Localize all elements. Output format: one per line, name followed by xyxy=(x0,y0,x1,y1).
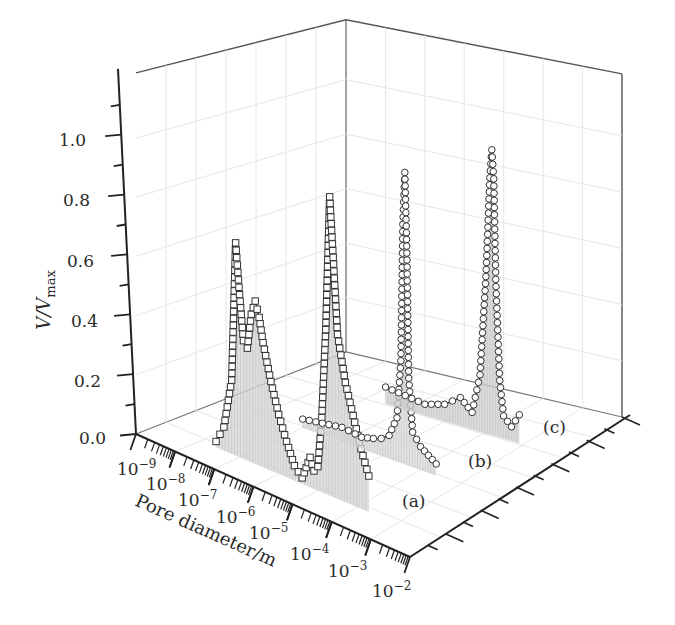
wall-top-edge xyxy=(136,20,622,74)
data-marker xyxy=(239,324,245,330)
x-minor-tick xyxy=(391,550,394,559)
data-marker xyxy=(478,350,485,357)
data-marker xyxy=(477,364,484,371)
data-marker xyxy=(313,419,320,426)
x-minor-tick xyxy=(223,474,226,483)
data-marker xyxy=(335,338,341,344)
data-marker xyxy=(261,346,267,352)
x-tick-label: 10−4 xyxy=(290,542,330,564)
x-minor-tick xyxy=(230,478,233,487)
data-marker xyxy=(360,452,366,458)
data-marker xyxy=(338,352,344,358)
y-axis-title: V/Vmax xyxy=(33,270,58,330)
data-marker xyxy=(435,401,442,408)
data-marker xyxy=(254,306,260,312)
data-marker xyxy=(234,254,240,260)
data-marker xyxy=(252,298,258,304)
data-marker xyxy=(398,358,405,365)
data-marker xyxy=(449,398,456,405)
data-marker xyxy=(481,308,488,315)
data-marker xyxy=(221,424,227,430)
data-marker xyxy=(320,374,326,380)
data-marker xyxy=(328,227,334,233)
data-marker xyxy=(330,247,336,253)
data-marker xyxy=(230,336,236,342)
back-walls xyxy=(136,20,622,434)
data-marker xyxy=(395,389,402,396)
data-marker xyxy=(232,240,238,246)
data-marker xyxy=(496,377,503,384)
data-marker xyxy=(491,204,498,211)
data-marker xyxy=(272,398,278,404)
data-marker xyxy=(347,399,353,405)
data-marker xyxy=(258,327,264,333)
data-marker xyxy=(330,261,336,267)
gridlines xyxy=(136,27,622,539)
data-marker xyxy=(229,363,235,369)
data-marker xyxy=(479,336,486,343)
data-marker xyxy=(492,255,499,262)
data-marker xyxy=(231,301,237,307)
x-minor-tick xyxy=(152,442,155,451)
data-marker xyxy=(478,343,485,350)
data-marker xyxy=(244,345,250,351)
data-marker xyxy=(404,278,411,285)
data-marker xyxy=(324,284,330,290)
data-marker xyxy=(489,154,496,161)
data-marker xyxy=(236,284,242,290)
data-marker xyxy=(490,176,497,183)
data-marker xyxy=(265,365,271,371)
data-marker xyxy=(496,363,503,370)
data-marker xyxy=(479,329,486,336)
data-marker xyxy=(227,384,233,390)
data-marker xyxy=(404,264,411,271)
x-minor-tick xyxy=(145,439,148,448)
y-minor-tick xyxy=(120,284,129,286)
data-marker xyxy=(405,312,412,319)
data-marker xyxy=(409,429,416,436)
depth-axis-line xyxy=(410,415,630,557)
series-label-b: (b) xyxy=(468,451,492,471)
data-marker xyxy=(402,203,409,210)
data-marker xyxy=(478,357,485,364)
data-marker xyxy=(323,305,329,311)
data-marker xyxy=(366,473,372,479)
x-minor-tick xyxy=(398,553,401,562)
data-marker xyxy=(342,379,348,385)
data-marker xyxy=(508,424,515,431)
y-axis-title-subscript: max xyxy=(43,270,58,298)
data-marker xyxy=(405,326,412,333)
y-tick-label: 0.4 xyxy=(71,311,98,331)
data-marker xyxy=(285,444,291,450)
series-label-a: (a) xyxy=(402,491,425,511)
data-marker xyxy=(470,402,477,409)
data-marker xyxy=(497,384,504,391)
data-marker xyxy=(492,240,499,247)
data-marker xyxy=(475,379,482,386)
data-marker xyxy=(398,307,405,314)
y-major-tick xyxy=(114,314,130,316)
y-minor-tick xyxy=(123,344,132,346)
data-marker xyxy=(491,219,498,226)
data-marker xyxy=(345,427,352,434)
data-marker xyxy=(271,392,277,398)
data-marker xyxy=(492,233,499,240)
data-marker xyxy=(235,269,241,275)
x-minor-tick xyxy=(347,530,350,539)
data-marker xyxy=(226,390,232,396)
y-major-tick xyxy=(105,135,121,137)
data-marker xyxy=(491,197,498,204)
data-marker xyxy=(319,401,325,407)
data-marker xyxy=(481,301,488,308)
x-minor-tick xyxy=(163,448,166,457)
data-marker xyxy=(482,280,489,287)
data-marker xyxy=(493,283,500,290)
data-marker xyxy=(350,412,356,418)
depth-tick xyxy=(551,464,569,472)
y-minor-tick xyxy=(111,105,120,107)
data-marker xyxy=(494,319,501,326)
data-marker xyxy=(289,456,295,462)
data-marker xyxy=(362,459,368,465)
data-marker xyxy=(398,314,405,321)
series-b xyxy=(299,169,439,475)
